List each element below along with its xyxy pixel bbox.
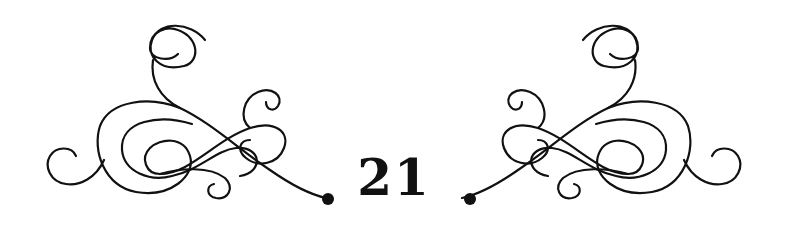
left-flourish-icon	[48, 26, 334, 205]
right-flourish-icon	[462, 26, 740, 205]
chapter-number: 21	[340, 150, 448, 206]
